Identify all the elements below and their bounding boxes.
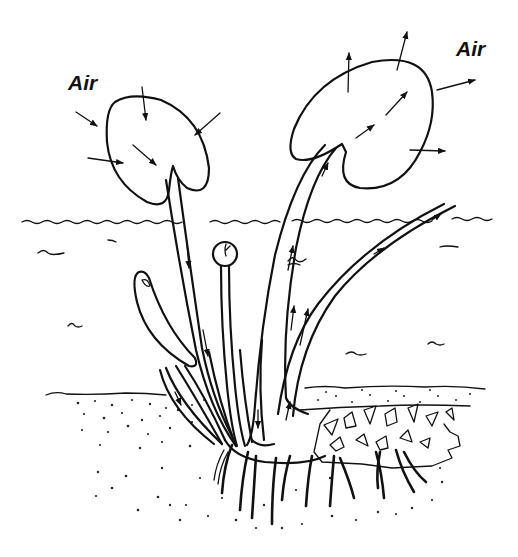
rhizome-inner-curve (252, 440, 274, 445)
air-inflow-arrows (76, 87, 220, 165)
water-surface (22, 218, 492, 356)
sediment-particles (77, 389, 471, 529)
emergent-petiole (278, 204, 455, 416)
submerged-leaf (134, 272, 225, 444)
sediment-surface (46, 386, 485, 410)
old-leaf (290, 60, 432, 188)
water-lily-ventilation-diagram: Air Air (0, 0, 518, 557)
rhizome (314, 404, 460, 468)
air-label-right: Air (455, 37, 487, 60)
air-label-left: Air (67, 71, 99, 94)
roots (214, 445, 426, 524)
young-leaf (107, 96, 209, 204)
